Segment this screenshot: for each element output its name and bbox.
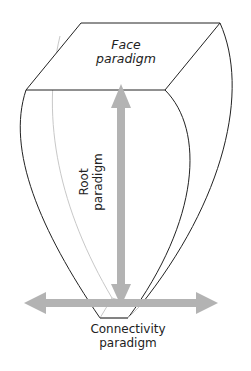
root-label-line1: Root: [77, 147, 91, 217]
root-label-line2: paradigm: [91, 147, 105, 217]
face-paradigm-label: Face paradigm: [86, 38, 166, 66]
conn-label-line2: paradigm: [70, 336, 186, 350]
root-arrow: [111, 84, 131, 306]
front-right-edge: [128, 90, 190, 318]
face-label-line1: Face: [86, 38, 166, 52]
connectivity-paradigm-label: Connectivity paradigm: [70, 322, 186, 350]
root-paradigm-label: Root paradigm: [77, 147, 105, 217]
face-label-line2: paradigm: [86, 52, 166, 66]
conn-label-line1: Connectivity: [70, 322, 186, 336]
